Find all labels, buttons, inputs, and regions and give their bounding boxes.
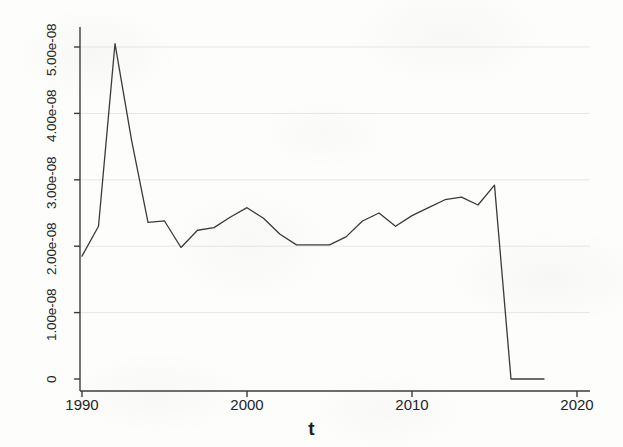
y-tick-label: 4.00e-08 xyxy=(44,90,59,143)
y-tick-label: 3.00e-08 xyxy=(44,156,59,209)
x-tick-label: 1990 xyxy=(65,396,98,413)
x-tick-label: 2010 xyxy=(395,396,428,413)
x-tick-label: 2000 xyxy=(230,396,263,413)
data-series-line xyxy=(82,44,544,379)
chart-figure: TextEXP_GDP 01.00e-082.00e-083.00e-084.0… xyxy=(0,0,623,447)
axis-lines xyxy=(80,27,590,391)
y-tick-label: 1.00e-08 xyxy=(44,289,59,342)
plot-area xyxy=(0,0,623,447)
x-tick-label: 2020 xyxy=(560,396,593,413)
y-tick-label: 0 xyxy=(44,375,59,382)
gridlines xyxy=(80,47,590,313)
y-tick-label: 2.00e-08 xyxy=(44,223,59,276)
y-tick-label: 5.00e-08 xyxy=(44,23,59,76)
x-axis-label: t xyxy=(0,418,623,440)
